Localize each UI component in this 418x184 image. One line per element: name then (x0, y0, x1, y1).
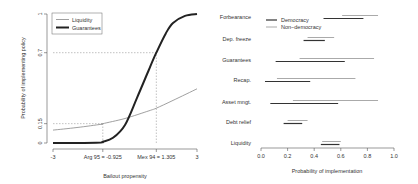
x-tick-label: Mex 94 = 1.305 (137, 154, 175, 160)
x-tick-label: 0.0 (257, 153, 265, 159)
x-tick-label: Arg 95 = -0.925 (84, 154, 122, 160)
category-label: Asset mngt. (222, 99, 252, 105)
right-panel-implementation-intervals: ForbearanceDep. freezeGuaranteesRecap.As… (220, 14, 398, 174)
y-axis: 00.150.71 (37, 12, 47, 144)
x-axis-title: Probability of implementation (292, 168, 363, 174)
x-tick-label: 3 (195, 154, 198, 160)
category-label: Recap. (234, 77, 252, 83)
category-labels: ForbearanceDep. freezeGuaranteesRecap.As… (220, 14, 252, 146)
x-tick-label: 0.6 (337, 153, 345, 159)
category-label: Guarantees (222, 57, 251, 63)
x-axis: 0.00.20.40.60.81.0 (257, 148, 398, 159)
legend: Democracy Non−democracy (266, 17, 321, 30)
y-tick-label: 0 (37, 141, 43, 144)
left-panel-logistic-curves: 00.150.71 -3Arg 95 = -0.925Mex 94 = 1.30… (20, 12, 199, 179)
x-tick-label: 0.2 (284, 153, 292, 159)
y-tick-label: 0.7 (37, 49, 43, 57)
x-axis: -3Arg 95 = -0.925Mex 94 = 1.3053 (51, 149, 199, 160)
legend-label-non-democracy: Non−democracy (281, 24, 321, 30)
legend-label-democracy: Democracy (281, 17, 309, 23)
category-label: Dep. freeze (223, 36, 251, 42)
x-tick-label: -3 (51, 154, 56, 160)
legend-label-liquidity: Liquidity (72, 17, 92, 23)
legend-label-guarantees: Guarantees (72, 25, 101, 31)
y-tick-label: 1 (37, 12, 43, 15)
y-tick-label: 0.15 (37, 118, 43, 129)
category-label: Liquidity (231, 140, 251, 146)
category-label: Forbearance (220, 14, 251, 20)
legend: Liquidity Guarantees (52, 13, 102, 34)
category-label: Debt relief (226, 119, 252, 125)
x-tick-label: 0.8 (364, 153, 372, 159)
dashed-reference-lines (53, 53, 156, 143)
figure: 00.150.71 -3Arg 95 = -0.925Mex 94 = 1.30… (0, 0, 418, 184)
x-axis-title: Bailout propensity (103, 173, 147, 179)
interval-series (265, 16, 378, 145)
chart-canvas: 00.150.71 -3Arg 95 = -0.925Mex 94 = 1.30… (0, 0, 418, 184)
x-tick-label: 1.0 (390, 153, 398, 159)
x-tick-label: 0.4 (310, 153, 318, 159)
y-axis-title: Probability of implementing policy (20, 37, 26, 119)
